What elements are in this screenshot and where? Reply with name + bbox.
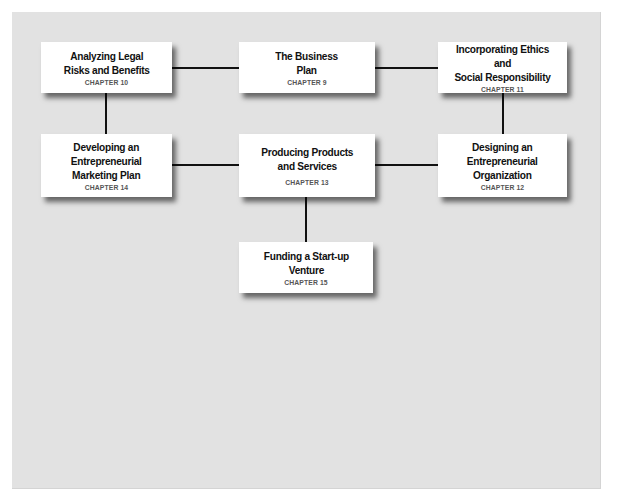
connector-ch10-ch9 <box>172 67 239 69</box>
connector-ch14-ch13 <box>172 164 239 166</box>
node-chapter: CHAPTER 11 <box>481 86 524 93</box>
node-analyzing-legal-risks: Analyzing Legal Risks and Benefits CHAPT… <box>41 42 172 93</box>
connector-ch13-ch15 <box>305 197 307 242</box>
node-funding-startup: Funding a Start-up Venture CHAPTER 15 <box>239 242 373 293</box>
connector-ch10-ch14 <box>105 93 107 134</box>
node-chapter: CHAPTER 10 <box>85 79 128 86</box>
node-title: Designing an Entrepreneurial Organizatio… <box>467 140 538 182</box>
node-ethics-social-responsibility: Incorporating Ethics and Social Responsi… <box>438 42 567 93</box>
node-title: Analyzing Legal Risks and Benefits <box>64 49 150 77</box>
node-title: Incorporating Ethics and Social Responsi… <box>449 42 555 84</box>
node-title: Developing an Entrepreneurial Marketing … <box>71 140 142 182</box>
node-chapter: CHAPTER 15 <box>284 279 327 286</box>
connector-ch9-ch11 <box>375 67 438 69</box>
node-title: Producing Products and Services <box>261 145 353 173</box>
node-chapter: CHAPTER 12 <box>481 184 524 191</box>
node-chapter: CHAPTER 9 <box>287 79 326 86</box>
node-marketing-plan: Developing an Entrepreneurial Marketing … <box>41 134 172 197</box>
node-chapter: CHAPTER 13 <box>285 179 328 186</box>
connector-ch11-ch12 <box>502 93 504 134</box>
node-chapter: CHAPTER 14 <box>85 184 128 191</box>
node-entrepreneurial-organization: Designing an Entrepreneurial Organizatio… <box>438 134 567 197</box>
connector-ch13-ch12 <box>375 164 438 166</box>
node-producing-products: Producing Products and Services CHAPTER … <box>239 134 375 197</box>
node-business-plan: The Business Plan CHAPTER 9 <box>239 42 375 93</box>
node-title: Funding a Start-up Venture <box>263 249 348 277</box>
node-title: The Business Plan <box>276 49 339 77</box>
